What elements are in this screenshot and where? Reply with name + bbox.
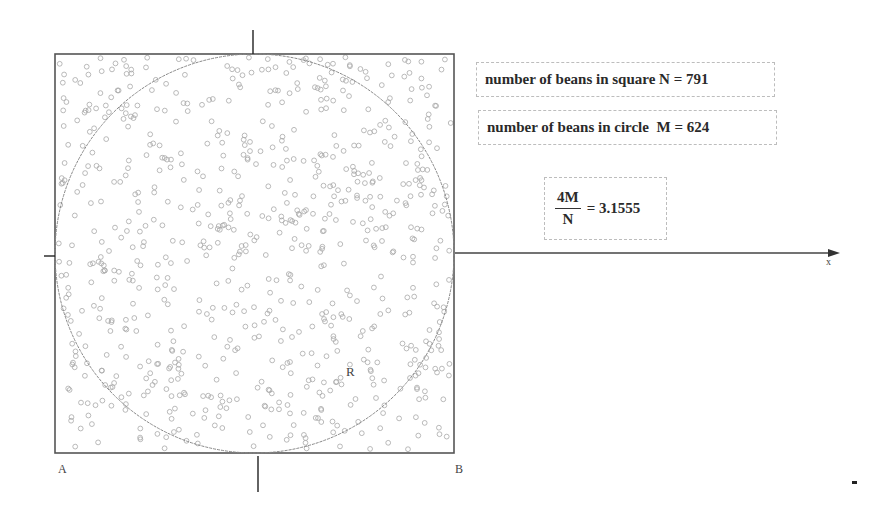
pi-estimate-value: 3.1555: [599, 200, 640, 217]
beans-layer: [56, 55, 453, 452]
radius-r-label: R: [346, 364, 355, 380]
ratio-fraction: 4M N: [555, 189, 581, 228]
circle-count-value: 624: [687, 119, 710, 136]
square-count-label: number of beans in square: [485, 71, 655, 88]
ratio-denominator: N: [562, 209, 573, 228]
small-marker: [852, 481, 857, 484]
square-count-var: N: [659, 71, 670, 88]
beans-in-circle-box: number of beans in circle M = 624: [478, 110, 777, 145]
point-b-label: B: [455, 462, 463, 477]
beans-in-square-box: number of beans in square N = 791: [476, 62, 775, 97]
square-count-value: 791: [686, 71, 709, 88]
circle-count-label: number of beans in circle: [487, 119, 649, 136]
x-axis-label: x: [826, 256, 831, 267]
circle-count-var: M: [656, 119, 670, 136]
pi-estimate-box: 4M N = 3.1555: [544, 177, 667, 240]
ratio-numerator: 4M: [555, 189, 581, 209]
point-a-label: A: [58, 462, 67, 477]
